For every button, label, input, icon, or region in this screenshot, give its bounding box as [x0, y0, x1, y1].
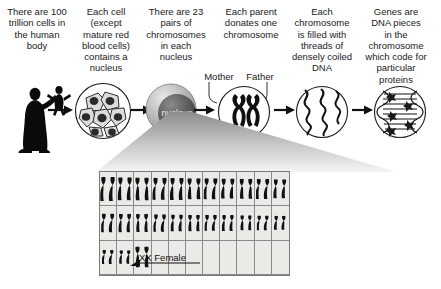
caption-cells-in-body: There are 100 trillion cells in the huma… [1, 6, 73, 51]
chromosome-glyph [273, 179, 287, 198]
karyotype-cell [134, 206, 151, 240]
chromosome-glyph [119, 214, 133, 233]
chromosome-glyph [170, 214, 183, 231]
karyotype-cell [152, 206, 169, 240]
chromosome-glyph [221, 178, 235, 199]
chromosome-glyph [257, 216, 269, 231]
karyotype-cell [203, 172, 220, 206]
chromosome-glyph [222, 215, 235, 231]
chromosome-glyph [256, 179, 270, 199]
karyotype-cell [117, 172, 134, 206]
chromosome-glyph [187, 178, 202, 200]
karyotype-cell [220, 206, 237, 240]
karyotype-cell [100, 206, 117, 240]
caption-parent-donates: Each parent donates one chromosome [215, 6, 287, 40]
chromosome-glyph [152, 177, 167, 200]
arrow-person-to-cell-icon [48, 104, 74, 116]
caption-chromosome-pairs: There are 23 pairs of chromosomes in eac… [138, 6, 214, 62]
karyotype-cell [237, 172, 254, 206]
chromosome-glyph [118, 177, 133, 201]
karyotype-cell [203, 241, 220, 275]
chromosome-glyph [135, 177, 150, 200]
karyotype-cell [152, 172, 169, 206]
karyotype-cell [220, 172, 237, 206]
chromosome-glyph [239, 215, 251, 230]
person-silhouette-icon [14, 82, 72, 154]
karyotype-cell [255, 241, 272, 275]
chromosome-glyph [205, 215, 218, 231]
karyotype-cell [100, 172, 117, 206]
karyotype-cell [117, 206, 134, 240]
chromosome-glyph [204, 178, 218, 199]
caption-coiled-dna: Each chromosome is filled with threads o… [288, 6, 356, 74]
karyotype-cell [255, 206, 272, 240]
karyotype-cell [272, 172, 289, 206]
karyotype-cell [272, 206, 289, 240]
xx-female-label: XX Female [139, 252, 186, 263]
chromosome-glyph [101, 213, 115, 232]
diagram-canvas: There are 100 trillion cells in the huma… [0, 0, 441, 289]
karyotype-cell [255, 172, 272, 206]
chromosome-glyph [136, 214, 149, 232]
karyotype-cell [186, 206, 203, 240]
karyotype-cell [169, 206, 186, 240]
caption-genes-proteins: Genes are DNA pieces in the chromosome w… [357, 6, 435, 85]
karyotype-cell [237, 241, 254, 275]
karyotype-cell [100, 241, 117, 275]
chromosome-glyph [238, 178, 252, 198]
magnification-cone [96, 112, 396, 174]
karyotype-cell [237, 206, 254, 240]
chromosome-glyph [153, 214, 166, 232]
chromosome-glyph [188, 215, 201, 232]
karyotype-cell [203, 206, 220, 240]
caption-cell-nucleus: Each cell (except mature red blood cells… [75, 6, 137, 74]
karyotype-cell [186, 172, 203, 206]
chromosome-glyph [102, 250, 114, 264]
karyotype-cell [169, 172, 186, 206]
chromosome-glyph [169, 178, 184, 200]
chromosome-glyph [274, 216, 286, 230]
karyotype-cell [220, 241, 237, 275]
chromosome-glyph [100, 177, 115, 201]
karyotype-cell [134, 172, 151, 206]
karyotype-cell [272, 241, 289, 275]
